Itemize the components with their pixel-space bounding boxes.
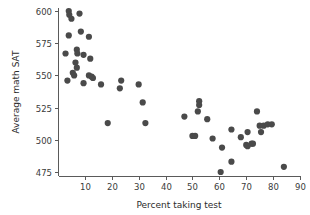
y-tick-label: 600 xyxy=(36,7,52,17)
data-point xyxy=(136,81,142,87)
x-tick-label: 10 xyxy=(80,182,91,192)
data-point xyxy=(228,126,234,132)
data-point xyxy=(66,32,72,38)
data-point xyxy=(210,135,216,141)
data-point xyxy=(218,169,224,175)
data-point xyxy=(105,120,111,126)
data-point xyxy=(196,102,202,108)
data-point xyxy=(98,81,104,87)
data-point xyxy=(142,120,148,126)
data-point xyxy=(254,108,260,114)
data-point xyxy=(219,144,225,150)
y-axis-title: Average math SAT xyxy=(11,50,21,134)
data-point xyxy=(90,75,96,81)
data-point xyxy=(238,134,244,140)
plot-axes xyxy=(59,8,301,177)
y-tick-label: 475 xyxy=(36,168,52,178)
x-tick-label: 50 xyxy=(187,182,198,192)
data-point xyxy=(258,129,264,135)
x-tick-label: 80 xyxy=(268,182,279,192)
x-tick-label: 20 xyxy=(107,182,118,192)
data-point xyxy=(64,77,70,83)
x-axis-title: Percent taking test xyxy=(136,200,222,210)
x-axis-ticks: 102030405060708090 xyxy=(80,176,306,192)
x-tick-label: 30 xyxy=(134,182,145,192)
data-point xyxy=(181,114,187,120)
data-point xyxy=(244,129,250,135)
data-point xyxy=(195,108,201,114)
data-point xyxy=(80,52,86,58)
y-tick-label: 525 xyxy=(36,104,52,114)
data-point xyxy=(74,50,80,56)
data-point xyxy=(68,16,74,22)
data-point xyxy=(140,99,146,105)
data-point xyxy=(86,34,92,40)
y-axis-ticks: 475500525550575600 xyxy=(36,7,58,178)
x-tick-label: 60 xyxy=(214,182,225,192)
y-tick-label: 500 xyxy=(36,136,52,146)
data-point xyxy=(281,164,287,170)
data-point xyxy=(76,10,82,16)
y-tick-label: 575 xyxy=(36,39,52,49)
scatter-plot-screenshot: 475500525550575600 102030405060708090 Pe… xyxy=(0,0,310,215)
x-tick-label: 90 xyxy=(295,182,306,192)
x-tick-label: 70 xyxy=(241,182,252,192)
data-point xyxy=(118,77,124,83)
data-point xyxy=(71,72,77,78)
x-tick-label: 40 xyxy=(161,182,172,192)
data-point xyxy=(117,85,123,91)
data-point xyxy=(80,80,86,86)
data-point xyxy=(87,56,93,62)
data-point xyxy=(228,159,234,165)
data-point xyxy=(78,29,84,35)
y-tick-label: 550 xyxy=(36,71,52,81)
data-point xyxy=(250,141,256,147)
data-point xyxy=(74,65,80,71)
data-points-layer xyxy=(62,8,287,175)
scatter-plot-figure: 475500525550575600 102030405060708090 Pe… xyxy=(0,0,310,215)
data-point xyxy=(269,121,275,127)
data-point xyxy=(192,133,198,139)
data-point xyxy=(204,116,210,122)
data-point xyxy=(62,50,68,56)
